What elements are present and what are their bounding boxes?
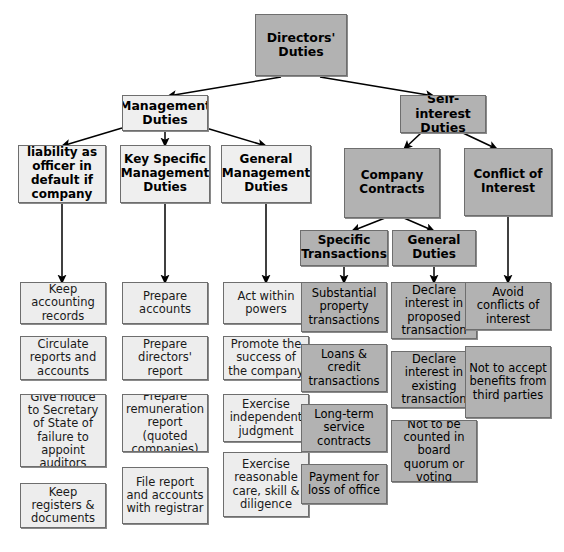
node-label: Company Contracts <box>345 169 439 197</box>
leaf-label: Prepare accounts <box>123 290 207 317</box>
node-label: Criminal liability as officer in default… <box>19 145 105 203</box>
leaf-label: Act within powers <box>224 290 308 317</box>
leaf-label: Prepare directors' report <box>123 338 207 378</box>
leaf-label: Promote the success of the company <box>224 338 308 378</box>
leaf-exercise-independent-judgment[interactable]: Exercise independent judgment <box>223 394 309 442</box>
leaf-not-accept-benefits-third-parties[interactable]: Not to accept benefits from third partie… <box>465 346 551 418</box>
leaf-label: Circulate reports and accounts <box>21 338 105 378</box>
node-label: Directors' Duties <box>256 31 346 60</box>
node-company-contracts[interactable]: Company Contracts <box>344 148 440 218</box>
node-label: Self-interest Duties <box>401 95 485 133</box>
node-criminal-liability[interactable]: Criminal liability as officer in default… <box>18 145 106 203</box>
leaf-label: Payment for loss of office <box>302 471 386 498</box>
leaf-label: Exercise independent judgment <box>224 398 308 438</box>
leaf-promote-success-of-company[interactable]: Promote the success of the company <box>223 336 309 380</box>
leaf-not-counted-board-quorum[interactable]: Not to be counted in board quorum or vot… <box>391 420 477 482</box>
node-label: General Management Duties <box>221 153 311 195</box>
leaf-label: Exercise reasonable care, skill & dilige… <box>224 458 308 511</box>
leaf-label: Keep accounting records <box>21 283 105 323</box>
node-self-interest-duties[interactable]: Self-interest Duties <box>400 95 486 133</box>
leaf-label: Declare interest in proposed transaction <box>392 284 476 337</box>
leaf-give-notice-secretary-of-state[interactable]: Give notice to Secretary of State of fai… <box>20 394 106 467</box>
leaf-label: Substantial property transactions <box>302 287 386 327</box>
leaf-label: Give notice to Secretary of State of fai… <box>21 394 105 467</box>
org-chart-diagram: Directors' Duties Management Duties Self… <box>0 0 564 552</box>
leaf-label: Keep registers & documents <box>21 486 105 526</box>
leaf-label: Prepare remuneration report (quoted comp… <box>123 394 207 452</box>
leaf-file-report-accounts-registrar[interactable]: File report and accounts with registrar <box>122 467 208 524</box>
leaf-keep-registers-documents[interactable]: Keep registers & documents <box>20 483 106 528</box>
leaf-label: Long-term service contracts <box>302 408 386 448</box>
leaf-label: Not to accept benefits from third partie… <box>466 362 550 402</box>
node-management-duties[interactable]: Management Duties <box>122 95 208 131</box>
leaf-label: Declare interest in existing transaction <box>392 353 476 406</box>
leaf-act-within-powers[interactable]: Act within powers <box>223 282 309 324</box>
node-conflict-of-interest[interactable]: Conflict of Interest <box>464 148 552 216</box>
leaf-prepare-remuneration-report[interactable]: Prepare remuneration report (quoted comp… <box>122 394 208 452</box>
leaf-payment-for-loss-of-office[interactable]: Payment for loss of office <box>301 464 387 504</box>
node-general-management-duties[interactable]: General Management Duties <box>221 145 311 203</box>
leaf-circulate-reports-accounts[interactable]: Circulate reports and accounts <box>20 336 106 380</box>
leaf-label: Avoid conflicts of interest <box>466 286 550 326</box>
node-label: Key Specific Management Duties <box>120 153 210 195</box>
node-label: Management Duties <box>122 99 208 128</box>
node-label: Conflict of Interest <box>465 168 551 196</box>
leaf-exercise-reasonable-care[interactable]: Exercise reasonable care, skill & dilige… <box>223 452 309 517</box>
leaf-label: Loans & credit transactions <box>302 348 386 388</box>
node-specific-transactions[interactable]: Specific Transactions <box>300 230 388 266</box>
node-label: General Duties <box>393 234 475 262</box>
leaf-prepare-accounts[interactable]: Prepare accounts <box>122 282 208 324</box>
leaf-label: File report and accounts with registrar <box>123 476 207 516</box>
leaf-prepare-directors-report[interactable]: Prepare directors' report <box>122 336 208 380</box>
leaf-long-term-service-contracts[interactable]: Long-term service contracts <box>301 404 387 452</box>
node-general-duties[interactable]: General Duties <box>392 230 476 266</box>
node-directors-duties[interactable]: Directors' Duties <box>255 14 347 76</box>
leaf-substantial-property-transactions[interactable]: Substantial property transactions <box>301 282 387 332</box>
node-key-specific-management-duties[interactable]: Key Specific Management Duties <box>120 145 210 203</box>
leaf-avoid-conflicts-of-interest[interactable]: Avoid conflicts of interest <box>465 282 551 330</box>
leaf-label: Not to be counted in board quorum or vot… <box>392 420 476 482</box>
node-label: Specific Transactions <box>300 234 388 262</box>
leaf-keep-accounting-records[interactable]: Keep accounting records <box>20 282 106 324</box>
leaf-loans-credit-transactions[interactable]: Loans & credit transactions <box>301 344 387 392</box>
